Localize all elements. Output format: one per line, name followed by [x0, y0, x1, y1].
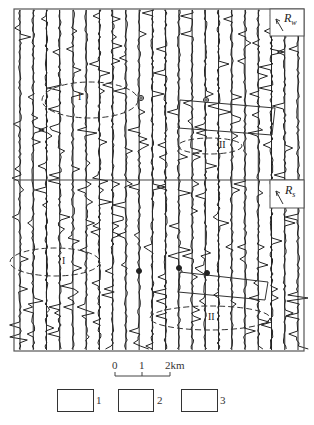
profile-map-figure: I [0, 0, 314, 425]
upper-zone-label-1: I [78, 91, 81, 102]
lower-zone-label-1: I [62, 255, 65, 266]
legend-box-3 [181, 389, 218, 412]
legend-box-2 [118, 389, 154, 412]
anomaly-overlays [10, 82, 275, 330]
upper-zone-label-2: II [219, 139, 226, 150]
scale-bar [115, 372, 170, 376]
scale-tick-2: 2km [165, 359, 185, 371]
lower-zone-label-2: II [208, 311, 215, 322]
upper-panel-label: Rw [284, 11, 297, 27]
lower-panel-label: Rs [285, 183, 295, 199]
well-marker-icon [177, 266, 182, 271]
well-marker-icon [205, 271, 210, 276]
legend-number-3: 3 [220, 394, 226, 406]
scale-tick-1: 1 [139, 359, 145, 371]
anomaly-contour [42, 82, 138, 118]
scale-tick-0: 0 [112, 359, 118, 371]
well-marker-icon [137, 269, 142, 274]
legend-number-1: 1 [96, 394, 102, 406]
legend-number-2: 2 [157, 394, 163, 406]
legend-box-1 [57, 389, 94, 412]
